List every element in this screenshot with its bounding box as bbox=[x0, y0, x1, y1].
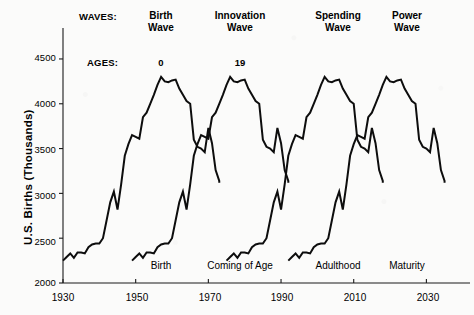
series-lines bbox=[63, 77, 445, 261]
stage-label-birth: Birth bbox=[130, 260, 192, 271]
wave-label-power-line2: Wave bbox=[376, 22, 438, 34]
y-tick-marks bbox=[59, 59, 63, 283]
y-tick-label-4000: 4000 bbox=[26, 98, 56, 109]
x-tick-label-2010: 2010 bbox=[335, 292, 375, 303]
y-tick-label-4500: 4500 bbox=[26, 52, 56, 63]
wave-label-birth-line1: Birth bbox=[130, 10, 192, 22]
wave-label-innovation: Innovation Wave bbox=[199, 10, 281, 33]
y-tick-label-2500: 2500 bbox=[26, 236, 56, 247]
wave-label-innovation-line1: Innovation bbox=[199, 10, 281, 22]
series-line-1 bbox=[132, 77, 288, 261]
x-tick-label-1950: 1950 bbox=[117, 292, 157, 303]
series-line-2 bbox=[227, 77, 383, 261]
y-tick-label-3000: 3000 bbox=[26, 190, 56, 201]
x-tick-marks bbox=[63, 279, 426, 283]
wave-label-birth: Birth Wave bbox=[130, 10, 192, 33]
wave-label-power: Power Wave bbox=[376, 10, 438, 33]
ages-key-label: AGES: bbox=[87, 57, 118, 68]
wave-label-spending-line1: Spending bbox=[300, 10, 376, 22]
wave-label-innovation-line2: Wave bbox=[199, 22, 281, 34]
x-tick-label-1970: 1970 bbox=[190, 292, 230, 303]
wave-label-birth-line2: Wave bbox=[130, 22, 192, 34]
age-label-innovation: 19 bbox=[199, 57, 281, 68]
stage-label-maturity: Maturity bbox=[376, 260, 438, 271]
x-tick-label-1930: 1930 bbox=[43, 292, 83, 303]
stage-label-coming-of-age: Coming of Age bbox=[195, 260, 285, 271]
stage-label-adulthood: Adulthood bbox=[300, 260, 376, 271]
y-axis-title: U.S. Births (Thousands) bbox=[22, 109, 34, 245]
wave-label-spending: Spending Wave bbox=[300, 10, 376, 33]
x-tick-label-2030: 2030 bbox=[408, 292, 448, 303]
y-tick-label-2000: 2000 bbox=[26, 277, 56, 288]
x-tick-label-1990: 1990 bbox=[262, 292, 302, 303]
waves-key-label: WAVES: bbox=[79, 11, 117, 22]
chart-root: U.S. Births (Thousands) 4500 4000 3500 3… bbox=[0, 0, 474, 315]
wave-label-spending-line2: Wave bbox=[300, 22, 376, 34]
y-tick-label-3500: 3500 bbox=[26, 144, 56, 155]
series-line-3 bbox=[288, 77, 444, 261]
age-label-birth: 0 bbox=[130, 57, 192, 68]
wave-label-power-line1: Power bbox=[376, 10, 438, 22]
series-line-0 bbox=[63, 77, 219, 261]
